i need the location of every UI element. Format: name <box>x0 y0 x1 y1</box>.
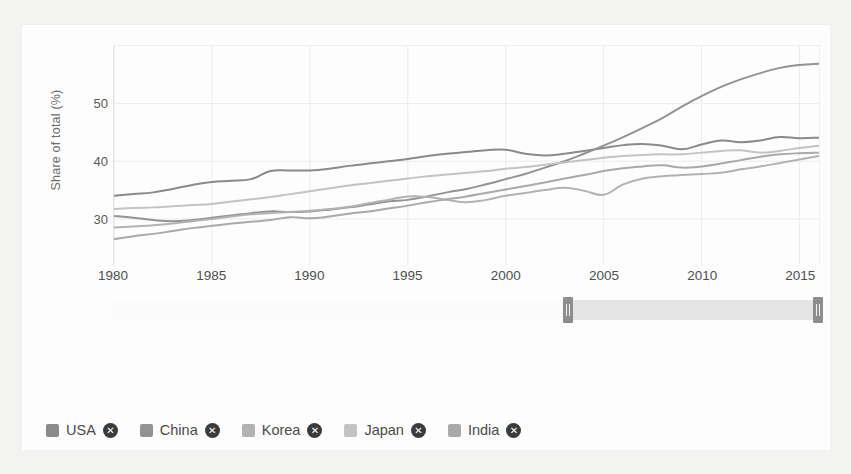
range-slider[interactable] <box>113 297 829 323</box>
legend-color-swatch <box>448 424 461 437</box>
legend-item-india[interactable]: India✕ <box>448 422 521 438</box>
legend-remove-icon[interactable]: ✕ <box>205 423 220 438</box>
chart-region: Share of total (%) 304050 19801985199019… <box>22 25 830 275</box>
legend-remove-icon[interactable]: ✕ <box>103 423 118 438</box>
x-tick-label: 2015 <box>785 268 815 283</box>
x-axis-tick-labels: 19801985199019952000200520102015 <box>113 268 820 290</box>
legend-item-usa[interactable]: USA✕ <box>46 422 118 438</box>
y-axis-tick-labels: 304050 <box>74 25 108 275</box>
legend-remove-icon[interactable]: ✕ <box>307 423 322 438</box>
legend-item-korea[interactable]: Korea✕ <box>242 422 323 438</box>
x-tick-label: 1980 <box>98 268 128 283</box>
legend-remove-icon[interactable]: ✕ <box>506 423 521 438</box>
y-tick-label: 30 <box>78 211 108 226</box>
slider-handle-right[interactable] <box>813 297 823 323</box>
slider-handle-left[interactable] <box>563 297 573 323</box>
x-tick-label: 1990 <box>294 268 324 283</box>
legend-item-label: Japan <box>364 422 404 438</box>
legend-color-swatch <box>344 424 357 437</box>
legend-remove-icon[interactable]: ✕ <box>411 423 426 438</box>
y-tick-label: 40 <box>78 153 108 168</box>
legend-item-china[interactable]: China✕ <box>140 422 220 438</box>
plot-area[interactable] <box>113 45 820 265</box>
legend-item-label: USA <box>66 422 96 438</box>
slider-selection-range[interactable] <box>568 300 819 320</box>
x-tick-label: 2005 <box>589 268 619 283</box>
legend-color-swatch <box>242 424 255 437</box>
legend-color-swatch <box>46 424 59 437</box>
x-tick-label: 1985 <box>196 268 226 283</box>
legend-item-label: India <box>468 422 499 438</box>
y-axis-title: Share of total (%) <box>49 70 63 210</box>
series-line-usa[interactable] <box>114 137 819 196</box>
y-tick-label: 50 <box>78 95 108 110</box>
legend-item-label: China <box>160 422 198 438</box>
x-tick-label: 2010 <box>687 268 717 283</box>
legend-item-japan[interactable]: Japan✕ <box>344 422 426 438</box>
legend-color-swatch <box>140 424 153 437</box>
series-line-japan[interactable] <box>114 146 819 209</box>
x-tick-label: 1995 <box>393 268 423 283</box>
x-tick-label: 2000 <box>491 268 521 283</box>
line-chart-svg <box>114 46 819 265</box>
chart-legend: USA✕China✕Korea✕Japan✕India✕ <box>46 410 521 450</box>
chart-card: Share of total (%) 304050 19801985199019… <box>22 25 830 450</box>
legend-item-label: Korea <box>262 422 301 438</box>
page-background: Share of total (%) 304050 19801985199019… <box>0 0 851 474</box>
series-line-india[interactable] <box>114 153 819 239</box>
